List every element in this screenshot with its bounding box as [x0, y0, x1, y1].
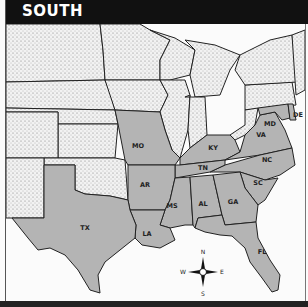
map-header: SOUTH — [6, 0, 308, 24]
frame-left-border — [5, 0, 6, 301]
frame-right-border — [305, 24, 306, 301]
label-al: AL — [198, 200, 207, 208]
label-la: LA — [142, 230, 151, 238]
label-ar: AR — [140, 181, 150, 189]
compass-n: N — [201, 248, 206, 255]
label-mo: MO — [132, 142, 144, 150]
label-ga: GA — [228, 198, 238, 206]
label-nc: NC — [262, 156, 272, 164]
map-title: SOUTH — [22, 2, 83, 20]
compass-s: S — [201, 290, 205, 297]
compass-rose-icon: N S E W — [180, 248, 224, 297]
compass-e: E — [220, 268, 224, 275]
label-tn: TN — [198, 164, 208, 172]
compass-w: W — [180, 268, 186, 275]
label-md: MD — [264, 120, 276, 128]
label-tx: TX — [80, 224, 89, 232]
label-fl: FL — [258, 248, 267, 256]
state-fl — [195, 215, 280, 292]
label-ky: KY — [208, 144, 218, 152]
south-region-map: MO KY MD DE VA NC TN SC AR MS AL GA TX L… — [0, 0, 308, 307]
label-ms: MS — [166, 202, 177, 210]
label-sc: SC — [253, 179, 263, 187]
frame-bottom-strip — [0, 301, 308, 307]
label-va: VA — [256, 131, 266, 139]
label-de: DE — [293, 111, 303, 119]
